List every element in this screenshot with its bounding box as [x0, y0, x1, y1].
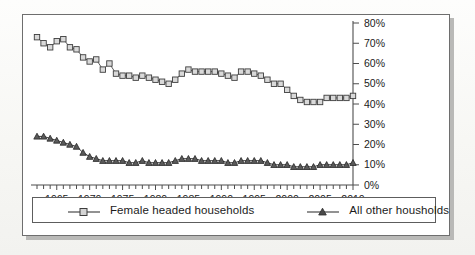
data-point-marker [166, 81, 171, 86]
data-point-marker [350, 93, 355, 98]
data-point-marker [86, 153, 92, 159]
data-point-marker [67, 45, 72, 50]
series-all-other-households [34, 133, 356, 169]
data-point-marker [179, 71, 184, 76]
data-point-marker [41, 41, 46, 46]
figure-frame: 1965197019751980198519901995200020052010… [22, 14, 450, 236]
legend-item-all-other-households[interactable]: All other housholds [306, 198, 449, 222]
data-point-marker [344, 95, 349, 100]
legend-item-female-headed-households[interactable]: Female headed households [67, 198, 254, 222]
y-axis-tick-label: 40% [364, 98, 385, 110]
data-point-marker [284, 87, 289, 92]
data-point-marker [126, 73, 131, 78]
data-point-marker [252, 71, 257, 76]
data-point-marker [54, 39, 59, 44]
data-point-marker [94, 57, 99, 62]
data-point-marker [100, 67, 105, 72]
chart-page: 1965197019751980198519901995200020052010… [0, 0, 475, 255]
data-point-marker [291, 93, 296, 98]
y-axis-tick-label: 0% [364, 179, 379, 191]
data-point-marker [146, 75, 151, 80]
data-point-marker [265, 77, 270, 82]
data-point-marker [212, 69, 217, 74]
data-point-marker [140, 73, 145, 78]
data-point-marker [139, 158, 145, 164]
chart-legend: Female headed households All other housh… [32, 197, 436, 223]
data-point-marker [173, 77, 178, 82]
square-marker-icon [67, 204, 101, 216]
data-point-marker [107, 61, 112, 66]
y-axis-tick-label: 20% [364, 138, 385, 150]
data-point-marker [205, 69, 210, 74]
data-point-marker [337, 95, 342, 100]
data-point-marker [80, 55, 85, 60]
data-point-marker [120, 73, 125, 78]
data-point-marker [271, 81, 276, 86]
data-point-marker [331, 95, 336, 100]
data-point-marker [304, 99, 309, 104]
data-point-marker [47, 45, 52, 50]
data-point-marker [219, 71, 224, 76]
data-point-marker [232, 75, 237, 80]
data-point-marker [298, 97, 303, 102]
data-point-marker [245, 69, 250, 74]
data-point-marker [192, 69, 197, 74]
data-point-marker [199, 69, 204, 74]
data-point-marker [133, 75, 138, 80]
data-point-marker [87, 59, 92, 64]
data-point-marker [311, 99, 316, 104]
y-axis-tick-label: 80% [364, 17, 385, 29]
data-point-marker [159, 79, 164, 84]
triangle-marker-icon [306, 204, 340, 216]
data-point-marker [258, 73, 263, 78]
data-point-marker [186, 67, 191, 72]
y-axis-tick-label: 60% [364, 57, 385, 69]
data-point-marker [278, 81, 283, 86]
data-point-marker [317, 99, 322, 104]
data-point-marker [238, 69, 243, 74]
y-axis-tick-label: 70% [364, 37, 385, 49]
data-point-marker [324, 95, 329, 100]
data-point-marker [153, 77, 158, 82]
y-axis-tick-label: 50% [364, 77, 385, 89]
data-point-marker [61, 37, 66, 42]
series-female-headed-households [34, 34, 355, 104]
legend-label-female-headed-households: Female headed households [110, 204, 254, 216]
legend-label-all-other-households: All other housholds [349, 204, 449, 216]
data-point-marker [34, 34, 39, 39]
y-axis-tick-label: 10% [364, 158, 385, 170]
data-point-marker [74, 47, 79, 52]
data-point-marker [225, 73, 230, 78]
data-point-marker [113, 71, 118, 76]
y-axis-tick-label: 30% [364, 118, 385, 130]
data-point-marker [350, 160, 356, 166]
